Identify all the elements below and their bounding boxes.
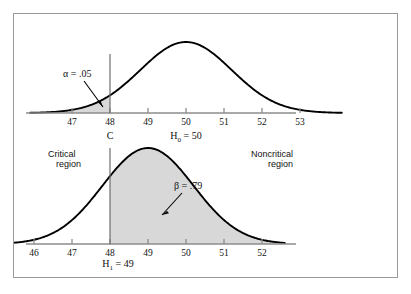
axis-tick-label: 49 [143, 248, 153, 258]
axis-tick-label: 48 [105, 117, 115, 127]
axis-tick-label: 53 [295, 117, 305, 127]
critical-region-label-line2: region [56, 159, 81, 169]
axis-tick-label: 50 [181, 248, 191, 258]
noncritical-region-label-line2: region [268, 159, 293, 169]
critical-region-label-line1: Critical [48, 149, 76, 159]
beta-shaded-region [110, 148, 285, 244]
axis-tick-label: 46 [29, 248, 39, 258]
axis-tick-label: 47 [67, 117, 77, 127]
figure-frame: 47484950515253 α = .05 C H0 = 50 Critica… [13, 13, 398, 278]
bottom-axis-tick-labels: 46474849505152 [29, 248, 267, 258]
alpha-label: α = .05 [63, 68, 91, 79]
critical-value-label: C [107, 130, 114, 141]
noncritical-region-label-line1: Noncritical [251, 149, 293, 159]
panel-null-distribution: 47484950515253 α = .05 C H0 = 50 [26, 42, 342, 144]
axis-tick-label: 47 [67, 248, 77, 258]
beta-label: β = .79 [174, 180, 202, 191]
top-axis-tick-labels: 47484950515253 [67, 117, 305, 127]
axis-tick-label: 52 [257, 117, 267, 127]
axis-tick-label: 51 [219, 248, 229, 258]
axis-tick-label: 50 [181, 117, 191, 127]
distribution-plot: 47484950515253 α = .05 C H0 = 50 Critica… [14, 14, 397, 277]
axis-tick-label: 49 [143, 117, 153, 127]
axis-tick-label: 48 [105, 248, 115, 258]
axis-tick-label: 52 [257, 248, 267, 258]
axis-tick-label: 51 [219, 117, 229, 127]
null-hypothesis-label: H0 = 50 [170, 130, 201, 144]
alternative-hypothesis-label: H1 = 49 [102, 258, 133, 272]
